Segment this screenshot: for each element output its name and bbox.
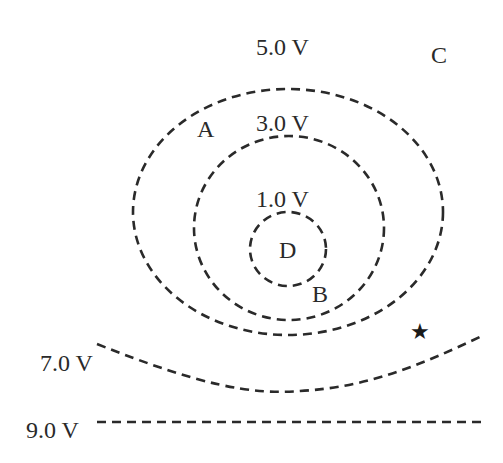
label-3v: 3.0 V (256, 110, 310, 136)
point-a: A (197, 116, 215, 142)
label-7v: 7.0 V (40, 350, 94, 376)
point-b: B (312, 281, 328, 307)
equipotential-7v (97, 336, 482, 392)
point-c: C (431, 42, 447, 68)
label-9v: 9.0 V (26, 417, 80, 443)
point-d: D (279, 237, 296, 263)
star-icon: ★ (410, 319, 430, 344)
equipotential-3v (194, 136, 384, 320)
label-5v: 5.0 V (256, 34, 310, 60)
equipotential-diagram: 5.0 V 3.0 V 1.0 V 7.0 V 9.0 V A B C D ★ (0, 0, 503, 463)
label-1v: 1.0 V (256, 186, 310, 212)
